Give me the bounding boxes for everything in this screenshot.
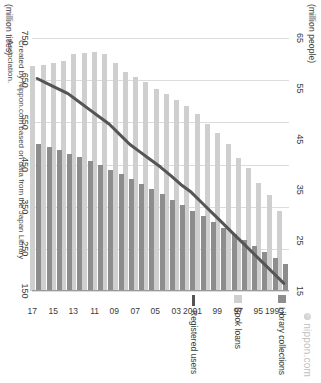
axis-tick: 25 xyxy=(295,235,305,245)
line-icon xyxy=(193,295,196,306)
axis-tick: 150 xyxy=(20,283,30,298)
axis-tick: 45 xyxy=(295,134,305,144)
nippon-dot-icon xyxy=(304,313,311,320)
registered-users-line xyxy=(32,38,289,291)
legend-item: Book loans xyxy=(233,295,243,343)
year-tick-label: 11 xyxy=(90,306,99,316)
light-square-icon xyxy=(234,295,242,303)
plot-area xyxy=(32,38,289,291)
chart-legend: Library collectionsBook loansRegistered … xyxy=(155,295,287,343)
library-statistics-chart: (million people) (million titles) 152535… xyxy=(0,0,321,383)
people-axis-unit: (million people) xyxy=(307,4,317,63)
year-tick-label: 13 xyxy=(69,306,78,316)
legend-label: Registered users xyxy=(189,310,199,374)
registered-users-polyline xyxy=(37,78,284,283)
year-tick-label: 17 xyxy=(28,306,37,316)
legend-item: Library collections xyxy=(277,295,287,343)
watermark-label: nippon.com xyxy=(302,323,313,377)
axis-tick: 15 xyxy=(295,286,305,296)
year-tick-label: 15 xyxy=(48,306,57,316)
legend-item: Registered users xyxy=(189,295,199,343)
axis-tick: 35 xyxy=(295,185,305,195)
dark-square-icon xyxy=(278,295,286,303)
legend-label: Library collections xyxy=(277,307,287,375)
nippon-watermark: nippon.com xyxy=(302,313,313,377)
year-tick-label: 07 xyxy=(130,306,139,316)
chart-credit: Created by Nippon.com based on data from… xyxy=(4,40,26,263)
legend-label: Book loans xyxy=(233,307,243,349)
axis-tick: 65 xyxy=(295,33,305,43)
year-tick-label: 09 xyxy=(110,306,119,316)
axis-tick: 55 xyxy=(295,84,305,94)
